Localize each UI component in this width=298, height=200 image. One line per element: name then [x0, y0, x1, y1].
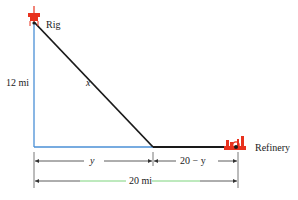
dimension-total: 20 mi [35, 175, 237, 186]
pipeline-diagram: Rig Refinery 12 mi x y 20 − y 20 mi [0, 0, 298, 200]
refinery-label: Refinery [255, 142, 290, 153]
vertical-distance-label: 12 mi [6, 77, 29, 88]
underwater-pipeline [34, 22, 153, 147]
segment-right-label: 20 − y [180, 155, 206, 166]
segment-left-label: y [89, 155, 95, 166]
rig-label: Rig [46, 19, 60, 30]
dimension-20-minus-y: 20 − y [154, 155, 237, 166]
total-distance-label: 20 mi [129, 175, 152, 186]
hypotenuse-label: x [85, 77, 91, 88]
dimension-y: y [35, 155, 152, 166]
